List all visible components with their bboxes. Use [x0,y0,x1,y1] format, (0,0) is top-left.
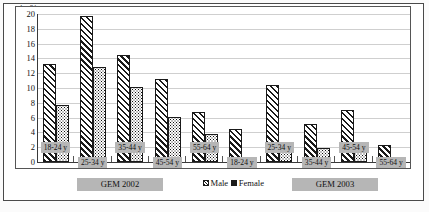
bar-male [341,110,354,162]
bar-group [373,14,410,162]
period-label-gem-2003: GEM 2003 [292,178,378,191]
y-axis-tick-label: 12 [27,69,36,78]
y-axis-tick-label: 18 [27,25,36,34]
y-axis-tick-label: 8 [31,99,35,108]
legend-label-female: Female [239,178,264,188]
bar-group [112,14,149,162]
legend-item-male: Male [203,178,228,188]
y-axis-tick-label: 20 [27,10,36,19]
y-axis-tick-label: 0 [31,158,35,167]
bar-male [155,79,168,162]
category-label: 35-44 y [302,157,331,168]
bar-female [56,105,69,162]
bar-male [80,16,93,162]
bar-group [223,14,260,162]
plot-area: 18-24 y25-34 y35-44 y45-54 y55-64 y18-24… [37,14,410,162]
bar-group [149,14,186,162]
period-label-gem-2002: GEM 2002 [77,178,163,191]
legend-swatch-male-icon [203,180,209,186]
bar-group [335,14,372,162]
chart-screenshot: in % 20181614121086420 18-24 y25-34 y35-… [0,0,429,212]
chart-legend: Male Female [203,178,264,188]
y-axis-tick-label: 10 [27,84,36,93]
bar-female [168,117,181,162]
bar-group [261,14,298,162]
category-label: 45-54 y [153,157,182,168]
y-axis-tick-label: 16 [27,39,36,48]
category-label: 45-54 y [339,142,368,153]
bar-female [93,67,106,162]
category-label: 25-34 y [78,157,107,168]
category-label: 18-24 y [227,157,256,168]
y-axis-tick-label: 6 [31,113,35,122]
y-axis: 20181614121086420 [15,14,37,162]
bar-group [298,14,335,162]
y-axis-tick-label: 2 [31,143,35,152]
legend-swatch-female-icon [231,180,237,186]
y-axis-tick-label: 4 [31,128,35,137]
y-axis-tick-label: 14 [27,54,36,63]
bar-male [192,112,205,162]
bar-group [186,14,223,162]
bar-group [37,14,74,162]
legend-item-female: Female [231,178,264,188]
category-label: 55-64 y [190,142,219,153]
category-label: 55-64 y [376,157,405,168]
category-label: 35-44 y [115,142,144,153]
legend-label-male: Male [211,178,229,188]
category-label: 25-34 y [265,142,294,153]
chart-footer: GEM 2002 Male Female GEM 2003 [15,172,411,198]
bar-group [74,14,111,162]
bar-groups [37,14,410,162]
category-label: 18-24 y [41,142,70,153]
